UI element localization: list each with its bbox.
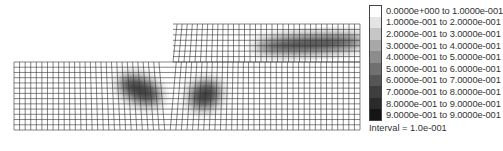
legend-item: 6.0000e-001 to 7.0000e-001 (369, 75, 503, 87)
legend-label: 1.0000e-001 to 2.0000e-001 (386, 17, 501, 27)
legend: 0.0000e+000 to 1.0000e-0011.0000e-001 to… (369, 5, 503, 121)
legend-item: 0.0000e+000 to 1.0000e-001 (369, 5, 503, 17)
legend-swatch (369, 63, 382, 75)
upper-band (255, 33, 365, 55)
legend-swatch (369, 109, 382, 121)
mesh-plot (0, 0, 365, 151)
legend-swatch (369, 5, 382, 17)
legend-swatch (369, 75, 382, 87)
legend-item: 5.0000e-001 to 6.0000e-001 (369, 63, 503, 75)
legend-item: 9.0000e-001 to 9.0000e-001 (369, 109, 503, 121)
legend-item: 7.0000e-001 to 8.0000e-001 (369, 86, 503, 98)
legend-swatch (369, 98, 382, 110)
contour-shading (115, 33, 365, 114)
legend-label: 5.0000e-001 to 6.0000e-001 (386, 64, 501, 74)
legend-item: 3.0000e-001 to 4.0000e-001 (369, 40, 503, 52)
legend-swatch (369, 28, 382, 40)
legend-label: 8.0000e-001 to 9.0000e-001 (386, 99, 501, 109)
legend-item: 8.0000e-001 to 9.0000e-001 (369, 98, 503, 110)
legend-label: 2.0000e-001 to 3.0000e-001 (386, 29, 501, 39)
legend-label: 4.0000e-001 to 5.0000e-001 (386, 52, 501, 62)
legend-item: 4.0000e-001 to 5.0000e-001 (369, 51, 503, 63)
legend-swatch (369, 40, 382, 52)
legend-item: 2.0000e-001 to 3.0000e-001 (369, 28, 503, 40)
legend-label: 9.0000e-001 to 9.0000e-001 (386, 110, 501, 120)
legend-item: 1.0000e-001 to 2.0000e-001 (369, 17, 503, 29)
legend-swatch (369, 17, 382, 29)
mesh-canvas (0, 0, 365, 151)
legend-swatch (369, 51, 382, 63)
legend-swatch (369, 86, 382, 98)
legend-label: 3.0000e-001 to 4.0000e-001 (386, 41, 501, 51)
legend-interval: Interval = 1.0e-001 (369, 123, 447, 133)
legend-label: 7.0000e-001 to 8.0000e-001 (386, 87, 501, 97)
legend-label: 0.0000e+000 to 1.0000e-001 (386, 6, 503, 16)
legend-label: 6.0000e-001 to 7.0000e-001 (386, 75, 501, 85)
